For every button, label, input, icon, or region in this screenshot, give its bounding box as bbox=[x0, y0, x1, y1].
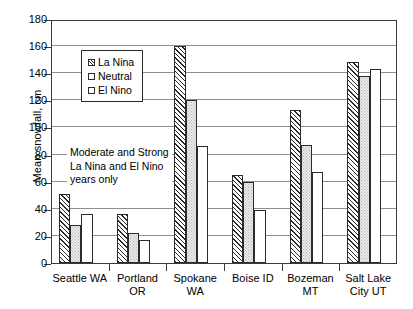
legend: La Nina Neutral El Nino bbox=[81, 50, 143, 102]
x-axis-label: Salt Lake City UT bbox=[339, 272, 397, 298]
x-axis-tick bbox=[166, 264, 167, 271]
y-axis-label: 20 bbox=[7, 231, 47, 242]
y-axis-label: 180 bbox=[7, 14, 47, 25]
bar-la-nina bbox=[174, 46, 185, 263]
y-axis-label: 40 bbox=[7, 204, 47, 215]
bar-el-nino bbox=[139, 240, 150, 263]
x-axis-tick bbox=[339, 264, 340, 271]
bar-neutral bbox=[70, 225, 81, 263]
x-axis-tick bbox=[109, 264, 110, 271]
y-axis-label: 60 bbox=[7, 177, 47, 188]
snowfall-bar-chart: Mean snowfall, cm 0204060801001201401601… bbox=[0, 0, 413, 309]
legend-item-la-nina: La Nina bbox=[88, 55, 134, 69]
x-axis-tick bbox=[282, 264, 283, 271]
y-axis-label: 120 bbox=[7, 95, 47, 106]
x-axis-label: Spokane WA bbox=[166, 272, 224, 298]
bar-neutral bbox=[359, 76, 370, 263]
bar-la-nina bbox=[117, 214, 128, 263]
y-axis-label: 100 bbox=[7, 122, 47, 133]
x-axis-label: Seattle WA bbox=[51, 272, 109, 285]
bar-el-nino bbox=[254, 210, 265, 263]
legend-label-neutral: Neutral bbox=[98, 69, 132, 83]
bar-el-nino bbox=[370, 69, 381, 263]
legend-swatch-el-nino-icon bbox=[88, 87, 95, 94]
bar-neutral bbox=[243, 182, 254, 263]
bar-el-nino bbox=[312, 172, 323, 263]
legend-item-neutral: Neutral bbox=[88, 69, 134, 83]
bar-la-nina bbox=[59, 194, 70, 263]
legend-label-el-nino: El Nino bbox=[98, 83, 132, 97]
bar-la-nina bbox=[232, 175, 243, 263]
bar-neutral bbox=[128, 233, 139, 263]
chart-annotation: Moderate and Strong La Nina and El Nino … bbox=[67, 145, 172, 188]
x-axis-tick bbox=[224, 264, 225, 271]
y-axis-label: 160 bbox=[7, 41, 47, 52]
legend-swatch-neutral-icon bbox=[88, 73, 95, 80]
bar-neutral bbox=[186, 100, 197, 263]
legend-swatch-la-nina-icon bbox=[88, 59, 95, 66]
x-axis-label: Bozeman MT bbox=[282, 272, 340, 298]
bar-el-nino bbox=[197, 146, 208, 263]
legend-label-la-nina: La Nina bbox=[98, 55, 134, 69]
bar-la-nina bbox=[347, 62, 358, 263]
bar-el-nino bbox=[81, 214, 92, 263]
y-axis-label: 0 bbox=[7, 258, 47, 269]
plot-area: La Nina Neutral El Nino Moderate and Str… bbox=[51, 20, 397, 264]
bar-neutral bbox=[301, 145, 312, 263]
y-axis-label: 80 bbox=[7, 150, 47, 161]
x-axis-label: Portland OR bbox=[109, 272, 167, 298]
bar-la-nina bbox=[290, 110, 301, 263]
x-axis-label: Boise ID bbox=[224, 272, 282, 285]
y-axis-label: 140 bbox=[7, 68, 47, 79]
legend-item-el-nino: El Nino bbox=[88, 83, 134, 97]
